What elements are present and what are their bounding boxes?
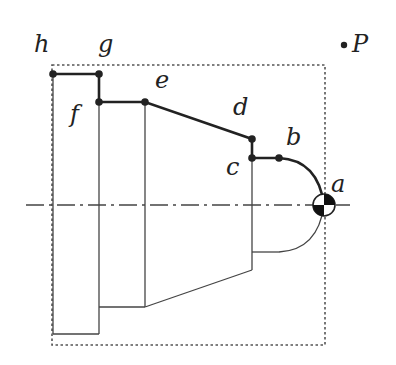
label-P: P: [351, 30, 369, 58]
label-f: f: [68, 100, 83, 128]
point-b: [275, 154, 283, 162]
point-g: [95, 70, 103, 78]
point-c: [248, 154, 256, 162]
point-e: [141, 98, 149, 106]
label-g: g: [98, 30, 113, 58]
point-h: [49, 70, 57, 78]
label-h: h: [34, 30, 49, 58]
point-P: [341, 42, 347, 48]
profile-points: [49, 42, 347, 162]
point-d: [248, 135, 256, 143]
label-e: e: [155, 66, 169, 94]
label-a: a: [331, 170, 345, 198]
label-b: b: [286, 123, 301, 151]
lower-profile: [53, 74, 324, 334]
point-f: [95, 98, 103, 106]
part-profile-diagram: h g e f d b c a P: [0, 0, 396, 365]
label-d: d: [233, 93, 248, 121]
label-c: c: [226, 153, 239, 181]
toolpath: [53, 74, 324, 205]
